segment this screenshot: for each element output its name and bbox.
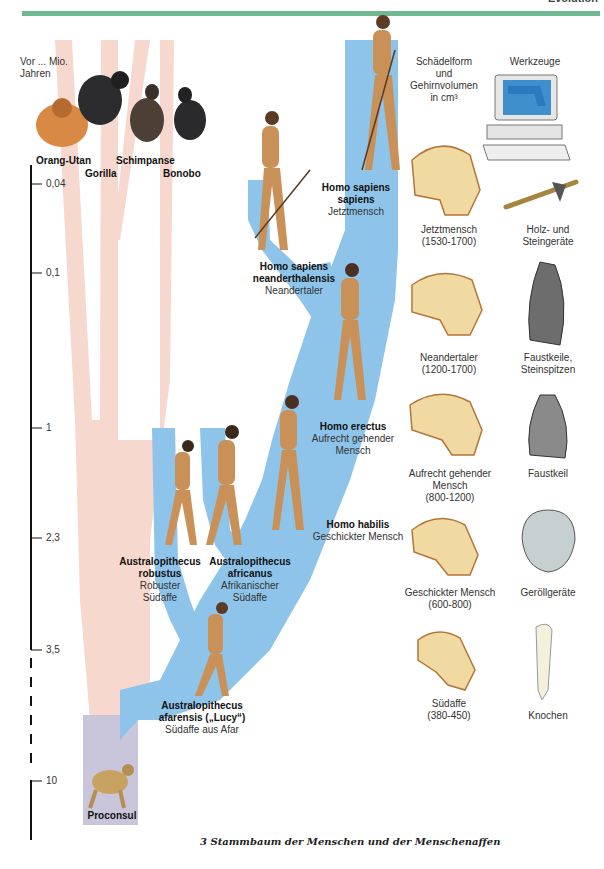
ape-label-gorilla: Gorilla — [85, 168, 117, 179]
label-homo-erectus: Homo erectus Aufrecht gehender Mensch — [308, 421, 398, 457]
common-name: Aufrecht gehender — [308, 433, 398, 445]
latin-name: Homo habilis — [308, 519, 408, 531]
common-name: Afrikanischer — [204, 580, 296, 592]
tool-label-holz-stein: Holz- und Steingeräte — [508, 224, 588, 248]
common-name-2: Mensch — [308, 445, 398, 457]
tick-label-0-04: 0,04 — [46, 178, 65, 189]
tick-label-2-3: 2,3 — [46, 532, 60, 543]
tool-name: Faustkeil — [508, 468, 588, 480]
latin-name-2: afarensis („Lucy“) — [150, 712, 254, 724]
axis-title: Vor ... Mio. Jahren — [20, 56, 68, 80]
skull-column-header: Schädelform und Gehirnvolumen in cm³ — [404, 56, 484, 104]
common-name-2: Südaffe — [204, 592, 296, 604]
skull-name: Geschickter Mensch — [400, 587, 500, 599]
latin-name-2: africanus — [204, 568, 296, 580]
header-line: und — [404, 68, 484, 80]
latin-name: Homo erectus — [308, 421, 398, 433]
latin-name: Australopithecus — [114, 556, 206, 568]
tool-name-2: Steingeräte — [508, 236, 588, 248]
common-name: Jetztmensch — [318, 206, 394, 218]
skull-label-neandertaler: Neandertaler (1200-1700) — [404, 352, 494, 376]
figure-caption: 3 Stammbaum der Menschen und der Mensche… — [200, 836, 500, 847]
latin-name: Homo sapiens — [246, 261, 342, 273]
brain-volume: (800-1200) — [400, 492, 500, 504]
skull-name: Neandertaler — [404, 352, 494, 364]
tick-label-10: 10 — [46, 775, 57, 786]
brain-volume: (1200-1700) — [404, 364, 494, 376]
skull-label-suedaffe: Südaffe (380-450) — [404, 698, 494, 722]
tool-label-faustkeil: Faustkeil — [508, 468, 588, 480]
phylogenetic-tree — [0, 0, 604, 869]
common-name: Südaffe aus Afar — [150, 724, 254, 736]
tool-name: Geröllgeräte — [508, 587, 588, 599]
axis-title-line2: Jahren — [20, 68, 68, 80]
tool-label-geroellgeraete: Geröllgeräte — [508, 587, 588, 599]
tool-name: Faustkeile, — [508, 352, 588, 364]
computer-illustration — [483, 75, 570, 160]
skull-label-habilis: Geschickter Mensch (600-800) — [400, 587, 500, 611]
tool-name: Knochen — [508, 710, 588, 722]
label-australopithecus-afarensis: Australopithecus afarensis („Lucy“) Süda… — [150, 700, 254, 736]
tool-label-faustkeile: Faustkeile, Steinspitzen — [508, 352, 588, 376]
common-name: Neandertaler — [246, 285, 342, 297]
tool-name-2: Steinspitzen — [508, 364, 588, 376]
tick-label-1: 1 — [46, 422, 52, 433]
skull-name-2: Mensch — [400, 480, 500, 492]
latin-name-2: robustus — [114, 568, 206, 580]
label-australopithecus-robustus: Australopithecus robustus Robuster Südaf… — [114, 556, 206, 604]
skull-name: Aufrecht gehender — [400, 468, 500, 480]
label-proconsul: Proconsul — [82, 810, 142, 822]
common-name: Robuster — [114, 580, 206, 592]
latin-name: Australopithecus — [150, 700, 254, 712]
ape-label-orang-utan: Orang-Utan — [36, 155, 91, 166]
latin-name-2: sapiens — [318, 194, 394, 206]
tick-label-3-5: 3,5 — [46, 644, 60, 655]
brain-volume: (1530-1700) — [404, 236, 494, 248]
header-line: Gehirnvolumen — [404, 80, 484, 92]
axis-title-line1: Vor ... Mio. — [20, 56, 68, 68]
latin-name: Homo sapiens — [318, 182, 394, 194]
common-name: Geschickter Mensch — [308, 531, 408, 543]
label-australopithecus-africanus: Australopithecus africanus Afrikanischer… — [204, 556, 296, 604]
latin-name: Australopithecus — [204, 556, 296, 568]
ape-label-bonobo: Bonobo — [163, 168, 201, 179]
label-homo-habilis: Homo habilis Geschickter Mensch — [308, 519, 408, 543]
skull-label-jetztmensch: Jetztmensch (1530-1700) — [404, 224, 494, 248]
latin-name: Proconsul — [82, 810, 142, 822]
tick-label-0-1: 0,1 — [46, 267, 60, 278]
brain-volume: (380-450) — [404, 710, 494, 722]
skull-name: Jetztmensch — [404, 224, 494, 236]
label-homo-neanderthalensis: Homo sapiens neanderthalensis Neandertal… — [246, 261, 342, 297]
tool-name: Holz- und — [508, 224, 588, 236]
tools-column-header: Werkzeuge — [500, 56, 570, 68]
tool-illustrations — [506, 182, 576, 700]
common-name-2: Südaffe — [114, 592, 206, 604]
header-line: in cm³ — [404, 92, 484, 104]
latin-name-2: neanderthalensis — [246, 273, 342, 285]
header-line: Schädelform — [404, 56, 484, 68]
axis-ticks — [31, 184, 42, 781]
skull-name: Südaffe — [404, 698, 494, 710]
skull-label-erectus: Aufrecht gehender Mensch (800-1200) — [400, 468, 500, 504]
label-homo-sapiens-sapiens: Homo sapiens sapiens Jetztmensch — [318, 182, 394, 218]
brain-volume: (600-800) — [400, 599, 500, 611]
ape-label-schimpanse: Schimpanse — [116, 155, 175, 166]
tool-label-knochen: Knochen — [508, 710, 588, 722]
